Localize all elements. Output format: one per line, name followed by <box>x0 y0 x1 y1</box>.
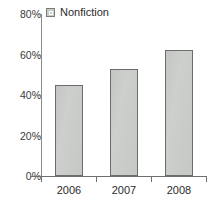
y-tick-mark-40 <box>36 95 41 96</box>
bar-2007 <box>110 69 138 176</box>
x-tick-mark-0 <box>41 177 42 182</box>
legend-label-nonfiction: Nonfiction <box>60 7 109 18</box>
x-axis-line <box>30 176 207 177</box>
y-axis-line <box>41 14 42 177</box>
chart-legend: Nonfiction <box>46 7 109 18</box>
x-axis-label-2007: 2007 <box>110 185 138 196</box>
x-tick-mark-3 <box>206 177 207 182</box>
bar-chart: Nonfiction 80% 60% 40% 20% 0% 2006 2007 … <box>0 0 212 204</box>
y-tick-mark-60 <box>36 55 41 56</box>
legend-swatch-icon <box>46 8 55 17</box>
bar-2008 <box>165 50 193 176</box>
x-tick-mark-2 <box>151 177 152 182</box>
bar-2006 <box>55 85 83 176</box>
x-axis-label-2006: 2006 <box>55 185 83 196</box>
y-tick-mark-20 <box>36 136 41 137</box>
x-axis-label-2008: 2008 <box>165 185 193 196</box>
x-tick-mark-1 <box>96 177 97 182</box>
y-tick-mark-80 <box>36 14 41 15</box>
